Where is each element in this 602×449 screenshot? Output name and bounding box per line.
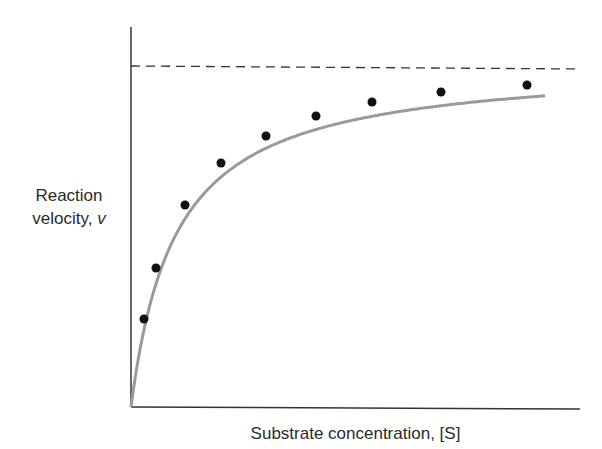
data-point [262,132,271,141]
data-point [523,81,532,90]
data-point [152,264,161,273]
data-point [217,159,226,168]
data-point [140,315,149,324]
data-point [437,88,446,97]
data-point [181,201,190,210]
vmax-asymptote [131,66,580,69]
x-axis [131,407,580,409]
fit-curve [131,96,545,407]
y-axis-label: Reaction velocity, v [14,184,124,230]
x-axis-label: Substrate concentration, [S] [131,424,580,444]
data-point [368,98,377,107]
data-point [312,112,321,121]
